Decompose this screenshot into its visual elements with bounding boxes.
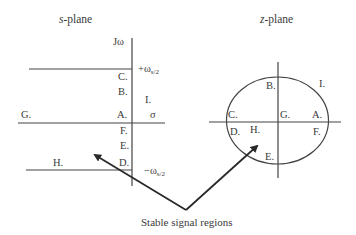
s-point-c: C. <box>118 71 128 83</box>
s-plane-axes <box>18 38 165 186</box>
diagram-lines <box>0 0 356 235</box>
upper-limit-label: +ωs/2 <box>138 63 159 78</box>
z-point-a: A. <box>312 109 322 121</box>
upper-limit-main: +ω <box>138 63 151 74</box>
s-point-d: D. <box>119 157 129 169</box>
upper-limit-sub: s/2 <box>151 68 159 76</box>
s-point-a: A. <box>117 109 127 121</box>
z-point-i: I. <box>319 78 325 90</box>
s-point-f: F. <box>120 125 128 137</box>
s-plane-title-rest: -plane <box>63 13 92 25</box>
z-point-h: H. <box>250 124 260 136</box>
z-point-d: D. <box>230 126 240 138</box>
z-point-e: E. <box>265 151 274 163</box>
z-plane-title-rest: -plane <box>264 13 293 25</box>
arrow-to-z-plane <box>186 146 257 210</box>
z-point-c: C. <box>228 109 238 121</box>
sigma-axis-label: σ <box>150 109 156 121</box>
z-plane-title: z-plane <box>260 13 293 25</box>
stable-regions-caption: Stable signal regions <box>141 216 233 228</box>
z-point-b: B. <box>266 80 276 92</box>
z-point-g: G. <box>280 109 290 121</box>
s-point-e: E. <box>120 140 129 152</box>
s-point-g: G. <box>21 109 31 121</box>
s-to-z-mapping-diagram: s-plane z-plane Jω +ωs/2 C. B. I. G. A. … <box>0 0 356 235</box>
s-point-i: I. <box>145 94 151 106</box>
lower-limit-main: −ω <box>144 165 157 176</box>
jw-axis-label: Jω <box>113 36 124 48</box>
stable-region-arrows <box>95 146 257 210</box>
z-point-f: F. <box>313 126 321 138</box>
lower-limit-label: −ωs/2 <box>144 165 165 180</box>
arrow-to-s-plane <box>95 155 186 210</box>
s-point-b: B. <box>118 86 128 98</box>
lower-limit-sub: s/2 <box>157 170 165 178</box>
s-point-h: H. <box>53 157 63 169</box>
s-plane-title: s-plane <box>59 13 92 25</box>
